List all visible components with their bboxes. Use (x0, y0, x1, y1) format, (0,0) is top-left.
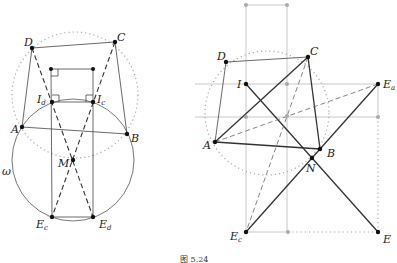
label-D: D (216, 50, 226, 63)
point-Id (50, 100, 54, 104)
point-Ec (50, 215, 54, 219)
grid-point (285, 114, 289, 118)
label-A: A (10, 123, 19, 136)
label-A: A (202, 139, 211, 152)
label-Ea: Ea (382, 78, 395, 92)
segment-DC (32, 42, 115, 48)
point-M (71, 158, 75, 162)
segment-AB (215, 142, 320, 149)
point-top-left (49, 67, 53, 71)
label-Ec: Ec (229, 230, 242, 244)
segment-AC (215, 57, 308, 142)
label-B: B (130, 132, 139, 145)
dashed-A-Ea (215, 84, 378, 142)
dashed-D-Ed (32, 48, 93, 217)
grid-point (244, 115, 248, 119)
point-Ea (376, 82, 380, 86)
segment-DA (215, 62, 226, 142)
label-Ic: Ic (96, 93, 105, 107)
point-Ed (91, 215, 95, 219)
grid-point (376, 115, 380, 119)
point-N (310, 156, 314, 160)
grid-point (285, 82, 289, 86)
segment-DA (22, 48, 32, 127)
label-I: I (236, 78, 242, 91)
point-top-right (91, 67, 95, 71)
label-E: E (382, 233, 391, 246)
figure-caption: 图 5.24 (180, 255, 208, 263)
right-panel: D C I Ea A B N Ec E (195, 3, 395, 246)
point-A (213, 140, 217, 144)
grid-point (285, 3, 289, 7)
label-Ed: Ed (98, 218, 112, 232)
label-Ec: Ec (35, 218, 48, 232)
grid-point (244, 3, 248, 7)
point-Ic (91, 100, 95, 104)
segment-AB (22, 127, 127, 134)
point-B (125, 132, 129, 136)
left-vertical-line (51, 69, 52, 217)
label-C: C (310, 45, 319, 58)
segment-DC (226, 57, 308, 62)
label-C: C (117, 31, 126, 44)
label-M: M (57, 157, 70, 170)
label-B: B (326, 147, 335, 160)
left-dotted-circle (12, 32, 138, 158)
point-Ec (244, 230, 248, 234)
segment-CB (308, 57, 320, 149)
point-B (318, 147, 322, 151)
point-A (20, 125, 24, 129)
grid-point (286, 230, 290, 234)
label-omega: ω (2, 165, 11, 178)
point-I (244, 82, 248, 86)
label-Id: Id (36, 93, 46, 107)
label-D: D (23, 36, 33, 49)
label-N: N (305, 162, 316, 175)
geometry-figure: D C A B M ω Id Ic Ec Ed (0, 0, 397, 263)
left-panel: D C A B M ω Id Ic Ec Ed (2, 31, 139, 232)
segment-CB (115, 42, 127, 134)
point-E (376, 230, 380, 234)
